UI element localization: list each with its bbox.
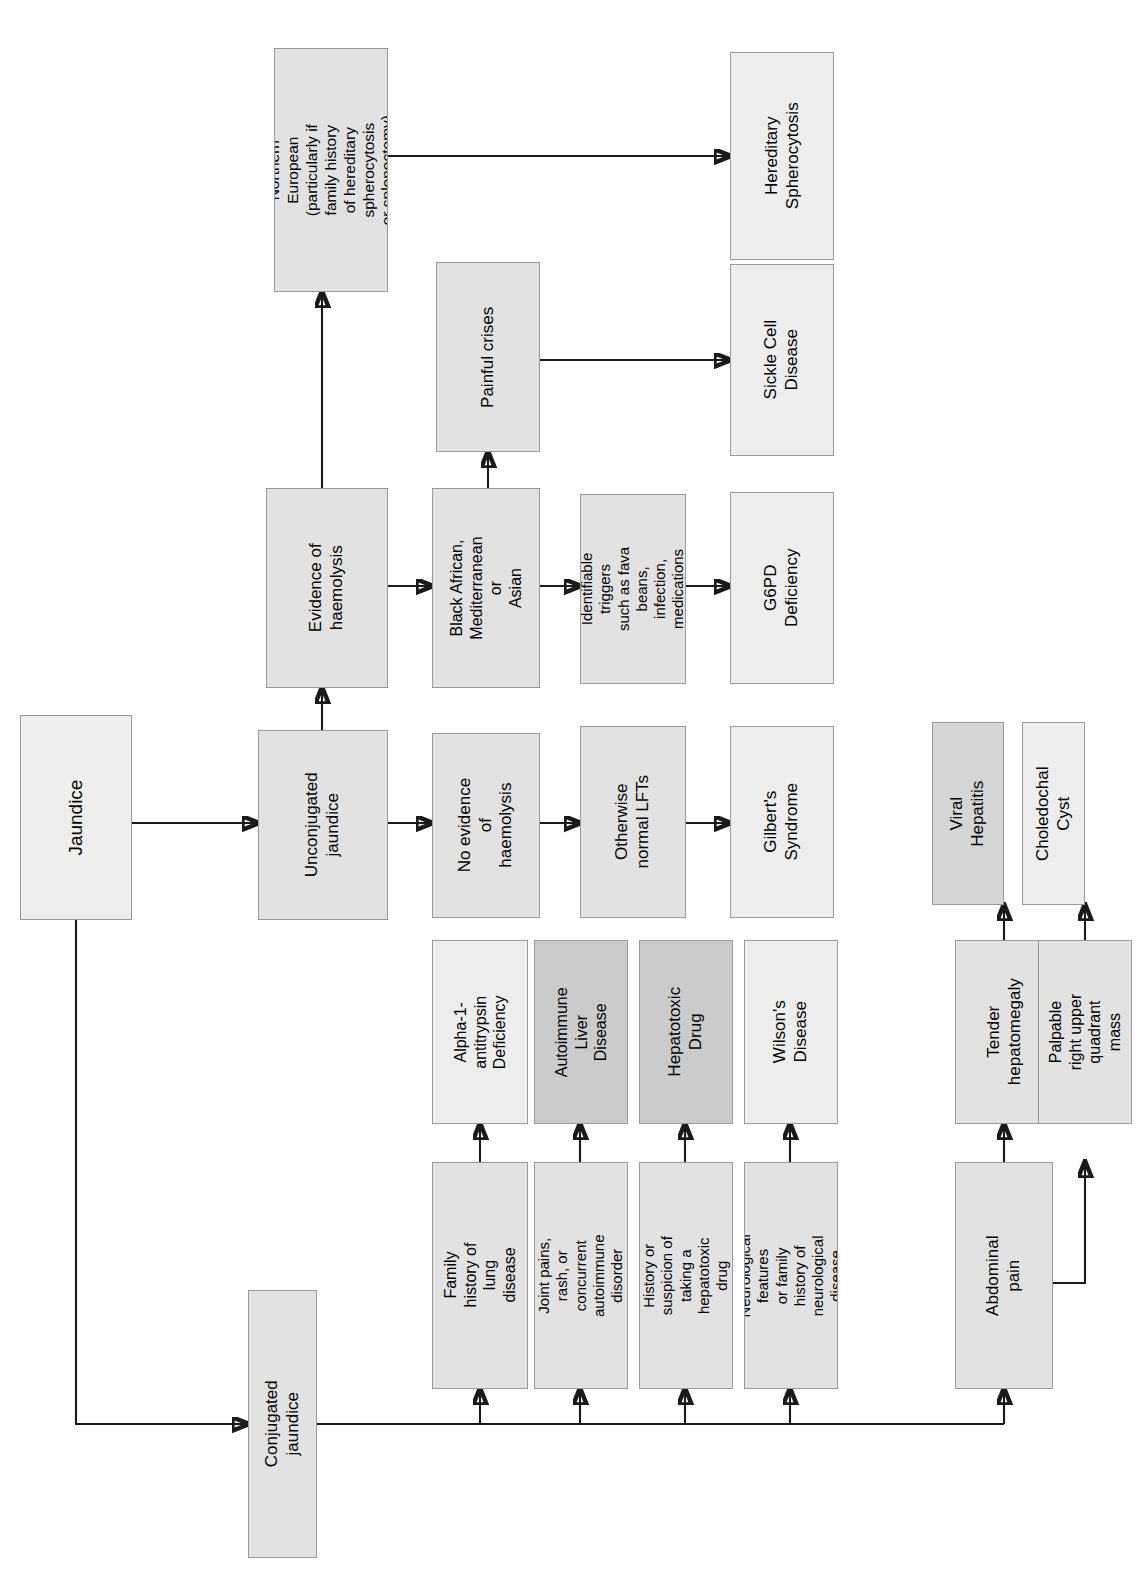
node-wilsons-disease[interactable]: Wilson's Disease [744,940,838,1124]
node-conjugated-jaundice-label: Conjugated jaundice [262,1381,303,1468]
node-g6pd-deficiency[interactable]: G6PD Deficiency [730,492,834,684]
node-sickle-cell-disease[interactable]: Sickle Cell Disease [730,264,834,456]
node-history-hepatotoxic-drug-label: History or suspicion of taking a hepatot… [640,1229,731,1321]
node-sickle-cell-disease-label: Sickle Cell Disease [761,309,802,411]
node-unconjugated-jaundice[interactable]: Unconjugated jaundice [258,730,388,920]
node-history-hepatotoxic-drug[interactable]: History or suspicion of taking a hepatot… [639,1162,733,1389]
node-alpha-1-antitrypsin-deficiency[interactable]: Alpha-1-antitrypsin Deficiency [432,940,528,1124]
node-jaundice-label: Jaundice [64,762,87,872]
node-joint-pains-rash-label: Joint pains, rash, or concurrent autoimm… [535,1229,626,1321]
node-autoimmune-liver-disease[interactable]: Autoimmune Liver Disease [534,940,628,1124]
node-gilberts-syndrome-label: Gilbert's Syndrome [761,771,802,873]
node-g6pd-deficiency-label: G6PD Deficiency [761,537,802,639]
node-evidence-of-haemolysis[interactable]: Evidence of haemolysis [266,488,388,688]
flowchart-canvas: Jaundice Unconjugated jaundice Conjugate… [0,0,1139,1573]
node-conjugated-jaundice[interactable]: Conjugated jaundice [248,1290,317,1558]
node-hereditary-spherocytosis[interactable]: Hereditary Spherocytosis [730,52,834,260]
node-family-history-lung-disease-label: Family history of lung disease [441,1229,519,1323]
node-unconjugated-jaundice-label: Unconjugated jaundice [302,761,343,889]
node-autoimmune-liver-disease-label: Autoimmune Liver Disease [552,986,611,1078]
node-choledochal-cyst-label: Choledochal Cyst [1033,766,1074,861]
node-abdominal-pain-label: Abdominal pain [983,1228,1024,1324]
node-hepatotoxic-drug[interactable]: Hepatotoxic Drug [639,940,733,1124]
node-identifiable-triggers-label: Identifiable triggers such as fava beans… [580,537,686,641]
node-neurological-features-label: Neurological features or family history … [744,1230,838,1322]
node-palpable-ruq-mass[interactable]: Palpable right upper quadrant mass [1038,940,1132,1124]
node-gilberts-syndrome[interactable]: Gilbert's Syndrome [730,726,834,918]
node-palpable-ruq-mass-label: Palpable right upper quadrant mass [1046,986,1124,1078]
node-abdominal-pain[interactable]: Abdominal pain [955,1162,1053,1389]
node-northern-european[interactable]: Northern European (particularly if famil… [274,48,388,292]
node-hereditary-spherocytosis-label: Hereditary Spherocytosis [761,103,802,210]
node-otherwise-normal-lfts-label: Otherwise normal LFTs [612,770,653,874]
node-tender-hepatomegaly-label: Tender hepatomegaly [983,979,1024,1086]
node-identifiable-triggers[interactable]: Identifiable triggers such as fava beans… [580,494,686,684]
node-choledochal-cyst[interactable]: Choledochal Cyst [1022,722,1085,905]
node-painful-crises[interactable]: Painful crises [436,262,540,452]
node-viral-hepatitis-label: Viral Hepatitis [947,779,988,849]
node-family-history-lung-disease[interactable]: Family history of lung disease [432,1162,528,1389]
node-wilsons-disease-label: Wilson's Disease [770,986,811,1078]
node-black-african-mediterranean-asian-label: Black African, Mediterranean or Asian [447,535,525,641]
node-neurological-features[interactable]: Neurological features or family history … [744,1162,838,1389]
node-otherwise-normal-lfts[interactable]: Otherwise normal LFTs [580,726,686,918]
node-evidence-of-haemolysis-label: Evidence of haemolysis [306,528,347,648]
node-painful-crises-label: Painful crises [478,306,499,408]
node-jaundice[interactable]: Jaundice [20,715,132,920]
node-no-evidence-of-haemolysis[interactable]: No evidence of haemolysis [432,733,540,918]
node-no-evidence-of-haemolysis-label: No evidence of haemolysis [455,772,517,878]
node-alpha-1-antitrypsin-deficiency-label: Alpha-1-antitrypsin Deficiency [451,985,510,1079]
node-viral-hepatitis[interactable]: Viral Hepatitis [932,722,1004,905]
node-northern-european-label: Northern European (particularly if famil… [274,114,388,226]
node-hepatotoxic-drug-label: Hepatotoxic Drug [665,986,706,1078]
node-black-african-mediterranean-asian[interactable]: Black African, Mediterranean or Asian [432,488,540,688]
node-joint-pains-rash[interactable]: Joint pains, rash, or concurrent autoimm… [534,1162,628,1389]
